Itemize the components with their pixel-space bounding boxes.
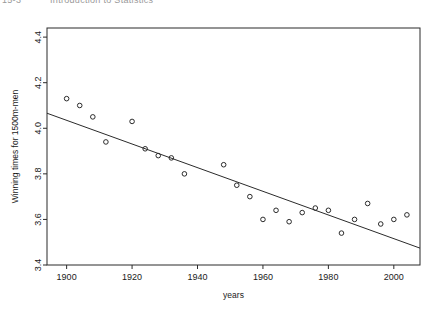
y-axis-title: Winning times for 1500m-men bbox=[10, 90, 20, 204]
scatter-plot: 3.43.63.84.04.24.4 190019201940196019802… bbox=[0, 0, 433, 319]
data-point bbox=[221, 162, 226, 167]
y-tick-label: 3.4 bbox=[33, 259, 43, 272]
data-point bbox=[182, 172, 187, 177]
data-points bbox=[64, 96, 409, 235]
x-tick-label: 2000 bbox=[384, 272, 404, 282]
data-point bbox=[104, 140, 109, 145]
data-point bbox=[64, 96, 69, 101]
y-tick-label: 3.8 bbox=[33, 168, 43, 181]
data-point bbox=[91, 115, 96, 120]
data-point bbox=[365, 201, 370, 206]
x-axis-title: years bbox=[223, 290, 244, 300]
data-point bbox=[77, 103, 82, 108]
data-point bbox=[378, 222, 383, 227]
x-tick-label: 1900 bbox=[57, 272, 77, 282]
data-point bbox=[261, 217, 266, 222]
data-point bbox=[352, 217, 357, 222]
data-point bbox=[339, 231, 344, 236]
data-point bbox=[234, 183, 239, 188]
figure-container: 15-3 Introduction to Statistics 3.43.63.… bbox=[0, 0, 433, 319]
y-tick-label: 4.2 bbox=[33, 76, 43, 89]
x-tick-label: 1920 bbox=[122, 272, 142, 282]
data-point bbox=[405, 213, 410, 218]
x-tick-label: 1940 bbox=[187, 272, 207, 282]
data-point bbox=[300, 210, 305, 215]
y-tick-label: 4.4 bbox=[33, 31, 43, 44]
data-point bbox=[326, 208, 331, 213]
data-point bbox=[274, 208, 279, 213]
data-point bbox=[287, 219, 292, 224]
x-axis-ticks: 190019201940196019802000 bbox=[57, 265, 404, 282]
data-point bbox=[248, 194, 253, 199]
trendline bbox=[47, 113, 420, 248]
y-tick-label: 4.0 bbox=[33, 122, 43, 135]
x-tick-label: 1980 bbox=[318, 272, 338, 282]
data-point bbox=[130, 119, 135, 124]
data-point bbox=[392, 217, 397, 222]
plot-frame bbox=[47, 28, 420, 265]
y-axis-ticks: 3.43.63.84.04.24.4 bbox=[33, 31, 47, 271]
x-tick-label: 1960 bbox=[253, 272, 273, 282]
y-tick-label: 3.6 bbox=[33, 213, 43, 226]
